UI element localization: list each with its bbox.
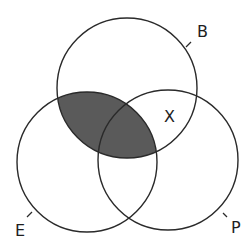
label-tick-b [186,42,191,47]
set-label-p: P [231,218,241,237]
shaded-region-b-intersect-e [17,92,157,232]
label-tick-e [27,212,32,217]
set-label-b: B [197,22,208,41]
label-tick-p [223,213,227,217]
region-marker-x: X [164,107,175,126]
venn-diagram: B E P X [0,0,250,244]
set-label-e: E [15,221,25,240]
